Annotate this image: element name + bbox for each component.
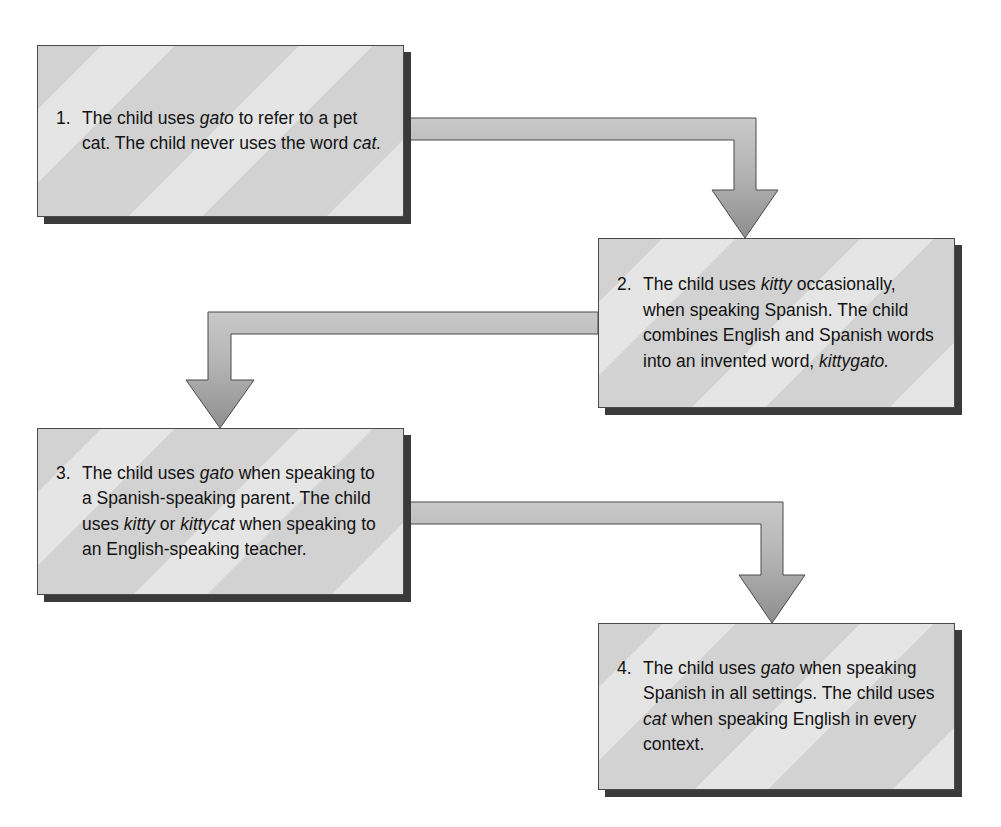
flow-step-4-row: 4. The child uses gato when speaking Spa… [617, 656, 938, 758]
flow-step-4[interactable]: 4. The child uses gato when speaking Spa… [598, 623, 955, 790]
flow-step-2-number: 2. [617, 272, 643, 298]
flow-step-1-text: The child uses gato to refer to a pet ca… [82, 106, 387, 157]
flow-step-4-text: The child uses gato when speaking Spanis… [643, 656, 938, 758]
connector-3-to-4 [404, 502, 805, 623]
flow-step-1-content: 1. The child uses gato to refer to a pet… [38, 46, 403, 216]
diagram-canvas: 1. The child uses gato to refer to a pet… [0, 0, 1001, 827]
flow-step-3[interactable]: 3. The child uses gato when speaking to … [37, 428, 404, 595]
flow-step-3-number: 3. [56, 461, 82, 487]
flow-step-1-row: 1. The child uses gato to refer to a pet… [56, 106, 387, 157]
flow-step-1-number: 1. [56, 106, 82, 132]
flow-step-3-content: 3. The child uses gato when speaking to … [38, 429, 403, 594]
flow-step-1[interactable]: 1. The child uses gato to refer to a pet… [37, 45, 404, 217]
connector-1-to-2 [404, 118, 778, 238]
flow-step-2[interactable]: 2. The child uses kitty occasionally, wh… [598, 238, 955, 408]
flow-step-2-content: 2. The child uses kitty occasionally, wh… [599, 239, 954, 407]
flow-step-2-row: 2. The child uses kitty occasionally, wh… [617, 272, 938, 374]
flow-step-2-text: The child uses kitty occasionally, when … [643, 272, 938, 374]
flow-step-4-number: 4. [617, 656, 643, 682]
flow-step-4-content: 4. The child uses gato when speaking Spa… [599, 624, 954, 789]
connector-2-to-3 [186, 312, 598, 428]
flow-step-3-text: The child uses gato when speaking to a S… [82, 461, 387, 563]
flow-step-3-row: 3. The child uses gato when speaking to … [56, 461, 387, 563]
